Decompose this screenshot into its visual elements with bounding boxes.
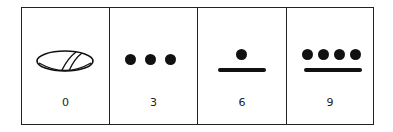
numeral-label: 0 bbox=[22, 96, 109, 109]
three-dots-icon bbox=[110, 38, 197, 78]
dot-bar-icon bbox=[198, 38, 286, 78]
numeral-label: 3 bbox=[110, 96, 197, 109]
shell-icon bbox=[22, 38, 109, 78]
cell-six: 6 bbox=[197, 8, 286, 124]
numeral-label: 6 bbox=[198, 96, 286, 109]
four-dots-bar-icon bbox=[287, 38, 373, 78]
numeral-table: 0 3 6 9 bbox=[21, 7, 374, 125]
numeral-label: 9 bbox=[287, 96, 373, 109]
cell-nine: 9 bbox=[286, 8, 373, 124]
cell-three: 3 bbox=[109, 8, 197, 124]
cell-zero: 0 bbox=[22, 8, 109, 124]
